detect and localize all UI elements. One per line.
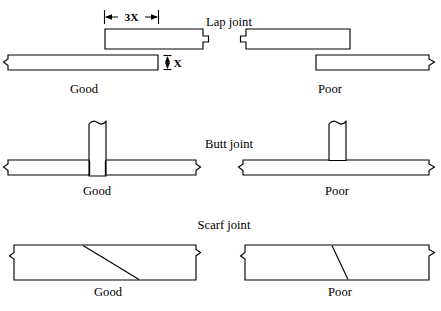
scarf-joint-group: Scarf joint Good Poor — [10, 218, 435, 299]
scarf-joint-good-label: Good — [94, 285, 123, 299]
arrow-left-icon — [105, 14, 112, 20]
lap-poor-upper-board — [241, 29, 351, 49]
scarf-joint-title: Scarf joint — [198, 218, 251, 232]
lap-poor-lower-board — [316, 55, 435, 70]
lap-overlap-dimension: 3X — [105, 9, 159, 24]
scarf-joint-poor-label: Poor — [328, 285, 353, 299]
overlap-dimension-label: 3X — [125, 11, 140, 23]
butt-poor-horizontal-board — [239, 160, 435, 175]
lap-good-lower-board — [4, 55, 159, 70]
arrow-up-icon — [165, 56, 170, 63]
arrow-down-icon — [165, 63, 170, 70]
butt-joint-good-label: Good — [83, 184, 112, 198]
joint-diagram: 3X X Lap joint Good Poor — [0, 0, 441, 311]
butt-joint-poor-label: Poor — [325, 184, 350, 198]
lap-joint-good-label: Good — [70, 82, 99, 96]
lap-joint-title: Lap joint — [206, 15, 252, 29]
lap-thickness-dimension: X — [164, 56, 183, 70]
lap-joint-group: 3X X Lap joint Good Poor — [4, 9, 435, 96]
butt-good-intersection-mask — [90, 161, 105, 175]
lap-joint-poor-label: Poor — [318, 82, 343, 96]
scarf-poor-board — [241, 245, 435, 280]
butt-joint-group: Butt joint Good Poor — [4, 121, 435, 198]
joints-drawing-canvas: 3X X Lap joint Good Poor — [0, 0, 441, 311]
scarf-good-board — [10, 245, 201, 280]
butt-joint-title: Butt joint — [205, 137, 253, 151]
arrow-right-icon — [151, 14, 158, 20]
lap-good-upper-board — [105, 29, 209, 49]
butt-poor-vertical-post — [329, 121, 346, 160]
thickness-dimension-label: X — [174, 57, 183, 69]
